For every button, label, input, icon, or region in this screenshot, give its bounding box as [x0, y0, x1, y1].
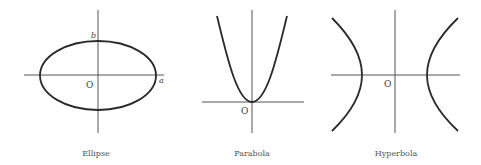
parabola-panel: O Parabola — [202, 10, 304, 158]
ellipse-caption: Ellipse — [82, 149, 110, 158]
ellipse-origin-label: O — [86, 80, 93, 90]
ellipse-panel: O a b Ellipse — [24, 10, 164, 158]
ellipse-b-label: b — [91, 31, 96, 40]
hyperbola-panel: O Hyperbola — [331, 10, 460, 158]
parabola-caption: Parabola — [234, 149, 270, 158]
parabola-origin-label: O — [241, 106, 248, 116]
ellipse-a-label: a — [159, 76, 164, 85]
conic-sections-diagram: O a b Ellipse O Parabola O Hyperbola — [0, 0, 481, 165]
hyperbola-origin-label: O — [384, 79, 391, 89]
hyperbola-caption: Hyperbola — [375, 149, 418, 158]
